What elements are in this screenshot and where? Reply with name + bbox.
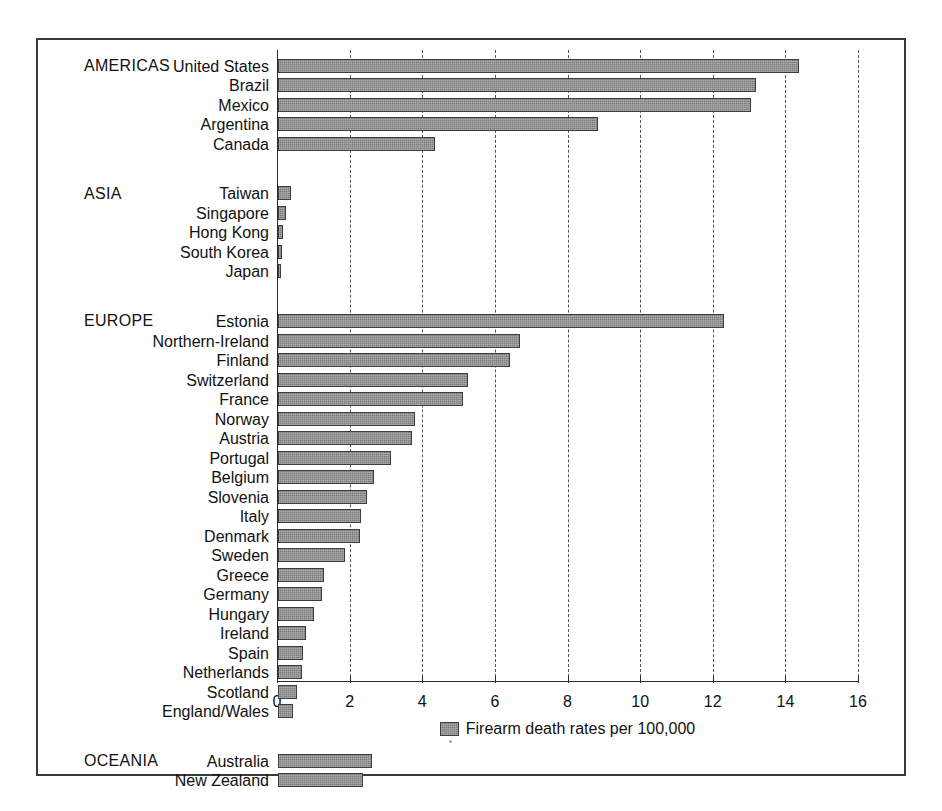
category-label: Netherlands: [183, 664, 269, 681]
bar: [278, 665, 302, 679]
category-label: Hungary: [209, 605, 269, 622]
bar: [278, 353, 510, 367]
tick-mark-16: [858, 676, 859, 683]
bar-row: Switzerland: [277, 370, 858, 390]
category-label: Scotland: [207, 683, 269, 700]
bar: [278, 646, 303, 660]
category-label: Ireland: [220, 625, 269, 642]
category-label: Mexico: [218, 96, 269, 113]
category-label: Estonia: [216, 313, 269, 330]
category-label: Taiwan: [219, 185, 269, 202]
bar-row: Japan: [277, 262, 858, 282]
bar: [278, 78, 756, 92]
bar-row: Northern-Ireland: [277, 331, 858, 351]
region-label-europe: EUROPE: [84, 312, 153, 330]
category-label: Sweden: [211, 547, 269, 564]
figure-frame: 0246810121416 United StatesBrazilMexicoA…: [36, 38, 906, 776]
category-label: Austria: [219, 430, 269, 447]
bar: [278, 509, 361, 523]
bar-row: Sweden: [277, 545, 858, 565]
bar: [278, 314, 724, 328]
category-label: South Korea: [180, 243, 269, 260]
bar-row: New Zealand: [277, 771, 858, 791]
bar-rows: United StatesBrazilMexicoArgentinaCanada…: [277, 50, 858, 682]
bar: [278, 334, 520, 348]
category-label: Denmark: [204, 527, 269, 544]
bar-row: Netherlands: [277, 662, 858, 682]
bar-row: United States: [277, 56, 858, 76]
chart-area: 0246810121416 United StatesBrazilMexicoA…: [38, 40, 904, 774]
category-label: Greece: [217, 566, 269, 583]
bar-row: Austria: [277, 428, 858, 448]
bar-row: Denmark: [277, 526, 858, 546]
bar-row: Greece: [277, 565, 858, 585]
category-label: Singapore: [196, 204, 269, 221]
bar: [278, 117, 598, 131]
bar: [278, 548, 345, 562]
bar-row: Mexico: [277, 95, 858, 115]
bar: [278, 373, 468, 387]
bar-row: Taiwan: [277, 184, 858, 204]
bar: [278, 206, 286, 220]
chart-legend: Firearm death rates per 100,000: [277, 720, 858, 738]
bar: [278, 59, 799, 73]
legend-label: Firearm death rates per 100,000: [466, 720, 695, 738]
bar-row: England/Wales: [277, 701, 858, 721]
bar: [278, 225, 283, 239]
bar-row: South Korea: [277, 242, 858, 262]
bar: [278, 626, 306, 640]
bar: [278, 98, 751, 112]
bar-row: Spain: [277, 643, 858, 663]
category-label: Germany: [203, 586, 269, 603]
region-label-americas: AMERICAS: [84, 57, 170, 75]
bar-row: Portugal: [277, 448, 858, 468]
category-label: Finland: [217, 352, 269, 369]
scan-speck: [449, 740, 452, 743]
bar: [278, 529, 360, 543]
bar-row: Slovenia: [277, 487, 858, 507]
category-label: United States: [173, 57, 269, 74]
category-label: Northern-Ireland: [153, 332, 270, 349]
bar: [278, 186, 291, 200]
category-label: Japan: [225, 263, 269, 280]
bar-row: Ireland: [277, 623, 858, 643]
category-label: England/Wales: [162, 703, 269, 720]
category-label: Australia: [207, 752, 269, 769]
bar: [278, 392, 463, 406]
bar-row: Hong Kong: [277, 223, 858, 243]
bar-row: Norway: [277, 409, 858, 429]
category-label: Norway: [215, 410, 269, 427]
category-label: Belgium: [211, 469, 269, 486]
bar: [278, 412, 415, 426]
bar-row: Hungary: [277, 604, 858, 624]
bar-row: France: [277, 389, 858, 409]
bar: [278, 451, 391, 465]
category-label: New Zealand: [175, 772, 269, 789]
bar-row: Canada: [277, 134, 858, 154]
bar: [278, 245, 282, 259]
bar: [278, 264, 281, 278]
gridline-16: [858, 50, 859, 682]
category-label: Argentina: [201, 116, 270, 133]
legend-swatch-icon: [440, 722, 459, 736]
category-label: Slovenia: [208, 488, 269, 505]
category-label: Hong Kong: [189, 224, 269, 241]
bar: [278, 587, 322, 601]
bar: [278, 704, 293, 718]
bar-row: Argentina: [277, 115, 858, 135]
category-label: Spain: [228, 644, 269, 661]
bar: [278, 490, 367, 504]
bar: [278, 470, 374, 484]
bar: [278, 685, 297, 699]
category-label: Canada: [213, 135, 269, 152]
bar-row: Italy: [277, 506, 858, 526]
bar: [278, 431, 412, 445]
bar-row: Scotland: [277, 682, 858, 702]
category-label: France: [219, 391, 269, 408]
category-label: Switzerland: [186, 371, 269, 388]
region-label-oceania: OCEANIA: [84, 752, 158, 770]
bar: [278, 754, 372, 768]
region-label-asia: ASIA: [84, 185, 122, 203]
bar-row: Belgium: [277, 467, 858, 487]
bar-row: Germany: [277, 584, 858, 604]
